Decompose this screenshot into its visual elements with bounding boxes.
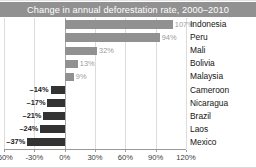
category-label-list: IndonesiaPeruMaliBoliviaMalaysiaCameroon… <box>190 18 254 149</box>
bar-mali <box>65 47 97 55</box>
bar-value-malaysia: 9% <box>76 72 87 81</box>
bar-row: 107% <box>4 18 186 31</box>
bar-row: –17% <box>4 97 186 110</box>
category-label-mali: Mali <box>190 44 205 57</box>
bar-row: –21% <box>4 110 186 123</box>
bar-nicaragua <box>47 99 64 107</box>
bar-row: 9% <box>4 70 186 83</box>
category-label-cameroon: Cameroon <box>190 84 229 97</box>
bar-value-brazil: –21% <box>23 111 42 120</box>
x-tick-label-60%: 60% <box>118 152 133 163</box>
x-tick-label-list: -60%-30%0%30%60%90%120% <box>0 152 256 166</box>
bar-laos <box>40 125 64 133</box>
deforestation-rate-bar-chart: Change in annual deforestation rate, 200… <box>0 0 256 168</box>
tick-mark--60% <box>4 150 5 152</box>
plot-frame: 107%94%32%13%9%–14%–17%–21%–24%–37% <box>4 18 186 149</box>
bar-brazil <box>43 112 64 120</box>
tick-mark-90% <box>156 150 157 152</box>
category-label-laos: Laos <box>190 123 208 136</box>
bar-row: –14% <box>4 84 186 97</box>
x-tick-label--30%: -30% <box>25 152 43 163</box>
category-label-indonesia: Indonesia <box>190 18 226 31</box>
x-tick-label-0%: 0% <box>59 152 70 163</box>
bar-value-nicaragua: –17% <box>27 98 46 107</box>
tick-mark--30% <box>34 150 35 152</box>
bar-row: 94% <box>4 31 186 44</box>
category-label-nicaragua: Nicaragua <box>190 97 228 110</box>
bar-value-cameroon: –14% <box>30 85 49 94</box>
bar-mexico <box>27 138 64 146</box>
bar-row: 32% <box>4 44 186 57</box>
bar-malaysia <box>65 73 74 81</box>
category-label-brazil: Brazil <box>190 110 211 123</box>
tick-mark-120% <box>186 150 187 152</box>
bar-value-mexico: –37% <box>6 137 25 146</box>
tick-mark-60% <box>125 150 126 152</box>
tick-mark-30% <box>95 150 96 152</box>
bar-value-bolivia: 13% <box>80 59 95 68</box>
category-label-mexico: Mexico <box>190 136 217 149</box>
x-tick-label-30%: 30% <box>87 152 102 163</box>
chart-title-band: Change in annual deforestation rate, 200… <box>0 2 256 17</box>
bar-row: 13% <box>4 57 186 70</box>
bar-row: –24% <box>4 123 186 136</box>
chart-title: Change in annual deforestation rate, 200… <box>27 5 229 15</box>
bar-value-laos: –24% <box>20 124 39 133</box>
x-tick-label-90%: 90% <box>148 152 163 163</box>
x-tick-label--60%: -60% <box>0 152 13 163</box>
bar-bolivia <box>65 60 78 68</box>
bar-value-mali: 32% <box>99 46 114 55</box>
category-label-bolivia: Bolivia <box>190 57 215 70</box>
x-tick-label-120%: 120% <box>176 152 195 163</box>
bar-value-peru: 94% <box>162 33 177 42</box>
bar-indonesia <box>65 20 173 28</box>
bar-cameroon <box>51 86 65 94</box>
category-label-malaysia: Malaysia <box>190 70 223 83</box>
category-label-peru: Peru <box>190 31 208 44</box>
bar-peru <box>65 33 160 41</box>
tick-mark-0% <box>65 150 66 152</box>
gridline-120% <box>186 18 187 149</box>
bar-row: –37% <box>4 136 186 149</box>
